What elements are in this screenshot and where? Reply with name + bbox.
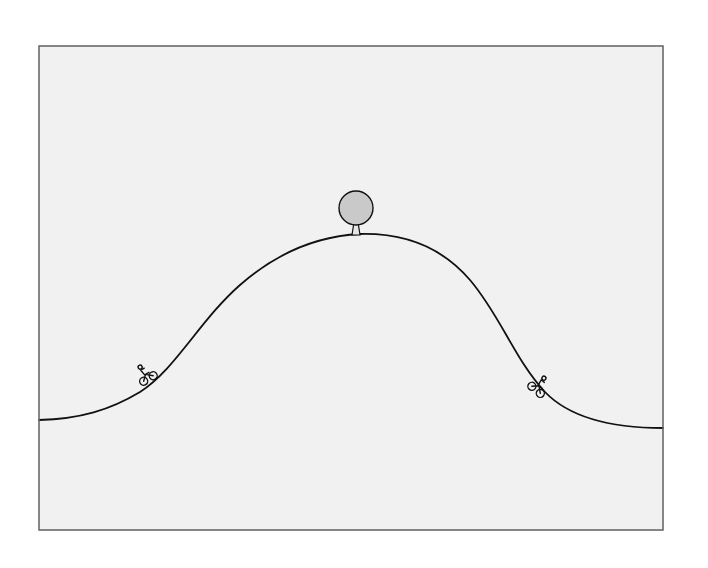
- tree-crown: [339, 191, 373, 225]
- paper-frame-background: [39, 46, 663, 530]
- hill-illustration: [0, 0, 708, 568]
